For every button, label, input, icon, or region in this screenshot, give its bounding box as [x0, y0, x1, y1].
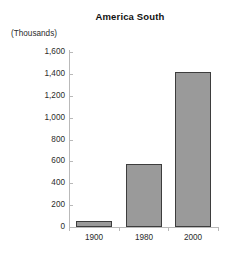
y-axis-tick	[69, 140, 73, 141]
y-axis-tick	[69, 74, 73, 75]
y-axis-tick-label: 600	[23, 156, 65, 165]
y-axis-tick-label: 1,200	[23, 91, 65, 100]
y-axis-tick-label-wrap: 1,000	[20, 113, 65, 123]
y-axis-tick-label-wrap: 1,400	[20, 69, 65, 79]
x-axis-tick	[168, 227, 169, 231]
y-axis-tick-label-wrap: 400	[20, 178, 65, 188]
x-axis-tick	[69, 227, 70, 231]
y-axis-tick-label-wrap: 1,200	[20, 91, 65, 101]
x-axis-label-1900: 1900	[69, 233, 119, 242]
y-axis-tick	[69, 161, 73, 162]
bar-1900	[76, 221, 112, 227]
y-axis-tick-label: 1,600	[23, 47, 65, 56]
y-axis-tick-label: 400	[23, 178, 65, 187]
y-axis-tick-label-wrap: 0	[20, 222, 65, 232]
y-axis-tick	[69, 183, 73, 184]
y-axis-tick-label: 800	[23, 135, 65, 144]
y-axis-tick-label-wrap: 800	[20, 135, 65, 145]
y-axis-tick	[69, 205, 73, 206]
bar-1980	[126, 164, 162, 227]
y-axis-tick	[69, 96, 73, 97]
bar-chart: America South (Thousands) 02004006008001…	[0, 0, 233, 256]
x-axis-label-1980: 1980	[119, 233, 169, 242]
y-axis-tick-label-wrap: 200	[20, 200, 65, 210]
y-axis-units-caption: (Thousands)	[11, 29, 57, 38]
x-axis-line	[69, 227, 219, 228]
chart-title: America South	[60, 11, 200, 22]
y-axis-tick	[69, 118, 73, 119]
y-axis-tick-label: 200	[23, 200, 65, 209]
bar-2000	[175, 72, 211, 227]
y-axis-tick-label: 0	[23, 222, 65, 231]
x-axis-tick	[119, 227, 120, 231]
y-axis-tick	[69, 52, 73, 53]
y-axis-tick-label: 1,400	[23, 69, 65, 78]
x-axis-label-2000: 2000	[168, 233, 218, 242]
y-axis-tick-label: 1,000	[23, 113, 65, 122]
y-axis-tick-label-wrap: 600	[20, 156, 65, 166]
y-axis-tick-label-wrap: 1,600	[20, 47, 65, 57]
x-axis-tick	[218, 227, 219, 231]
